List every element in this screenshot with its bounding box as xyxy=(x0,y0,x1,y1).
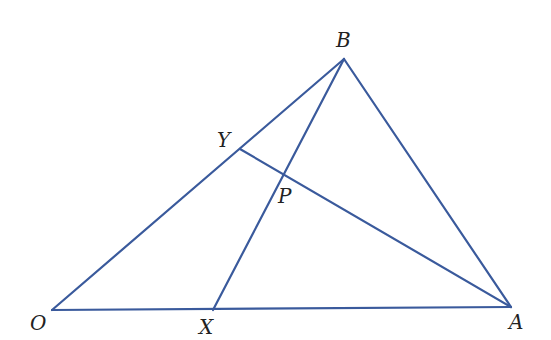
segment-BA xyxy=(344,59,511,307)
label-P: P xyxy=(278,186,291,206)
diagram-canvas: B Y P O X A xyxy=(0,0,551,340)
label-A: A xyxy=(509,312,523,332)
segment-YA xyxy=(240,149,511,307)
segment-OA xyxy=(52,307,511,310)
label-O: O xyxy=(30,313,46,333)
label-X: X xyxy=(199,317,213,337)
triangle-figure xyxy=(0,0,551,340)
label-B: B xyxy=(336,30,351,50)
label-Y: Y xyxy=(217,130,230,150)
